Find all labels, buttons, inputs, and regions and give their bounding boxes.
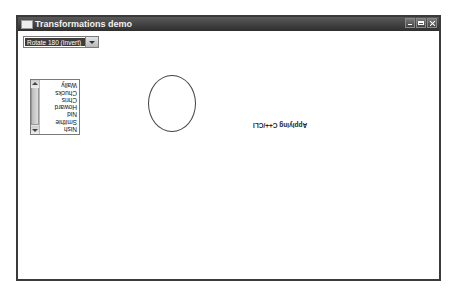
names-listbox[interactable]: Nish Smithie Nid Howard Chris Chucks Wal…: [30, 79, 80, 135]
list-item[interactable]: Smithie: [42, 118, 77, 125]
app-icon: [21, 20, 33, 29]
scroll-up-arrow-icon[interactable]: [31, 126, 39, 134]
window-controls: [405, 18, 437, 28]
list-item[interactable]: Howard: [42, 104, 77, 111]
app-window: Transformations demo Rotate 180 (Invert)…: [16, 15, 441, 281]
list-item[interactable]: Wally: [42, 82, 77, 89]
maximize-button[interactable]: [416, 18, 426, 28]
list-item[interactable]: Chris: [42, 97, 77, 104]
transform-combobox[interactable]: Rotate 180 (Invert): [23, 36, 99, 48]
list-item[interactable]: Nid: [42, 111, 77, 118]
list-item[interactable]: Chucks: [42, 89, 77, 96]
ellipse-shape: [148, 75, 196, 132]
listbox-scrollbar[interactable]: [31, 80, 40, 134]
list-item[interactable]: Nish: [42, 126, 77, 133]
window-title: Transformations demo: [35, 18, 132, 30]
title-bar[interactable]: Transformations demo: [18, 17, 439, 31]
combobox-value: Rotate 180 (Invert): [25, 38, 85, 46]
chevron-down-icon[interactable]: [85, 37, 98, 47]
close-button[interactable]: [427, 18, 437, 28]
listbox-items: Nish Smithie Nid Howard Chris Chucks Wal…: [42, 82, 77, 133]
minimize-button[interactable]: [405, 18, 415, 28]
rotated-text-label: Applying C++/CLI: [253, 122, 307, 129]
scroll-down-arrow-icon[interactable]: [31, 80, 39, 88]
scroll-thumb[interactable]: [31, 87, 39, 125]
